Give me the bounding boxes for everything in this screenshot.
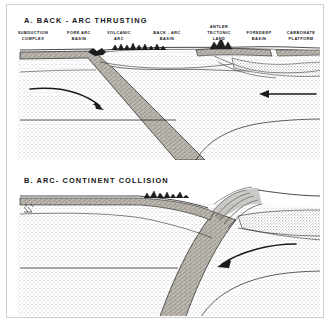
feature-label-foredeep-basin: FOREDEEPBASIN [238, 30, 280, 42]
feature-label-subduction-complex: SUBDUCTIONCOMPLEX [10, 30, 56, 42]
feature-label-back-arc-basin: BACK - ARCBASIN [145, 30, 189, 42]
feature-label-antler-tectonic-land: ANTLERTECTONICLAND [198, 24, 240, 42]
panel-a-drawing [0, 0, 332, 160]
panel-b-drawing [0, 160, 332, 322]
geologic-cross-section-figure: A. BACK - ARC THRUSTING [0, 0, 332, 322]
feature-label-carbonate-platform: CARBONATEPLATFORM [278, 30, 324, 42]
feature-label-fore-arc-basin: FORE ARCBASIN [58, 30, 100, 42]
panel-arc-continent-collision: B. ARC- CONTINENT COLLISION [0, 160, 332, 322]
feature-label-volcanic-arc: VOLCANICARC [98, 30, 140, 42]
panel-back-arc-thrusting: A. BACK - ARC THRUSTING [0, 0, 332, 160]
